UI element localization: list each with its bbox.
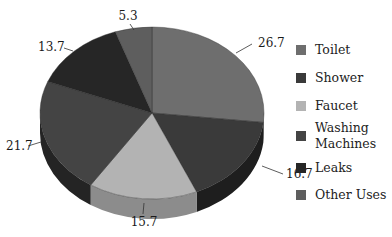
legend-item-toilet: Toilet — [296, 43, 350, 56]
legend-swatch-leaks — [296, 163, 306, 173]
pie-slices — [40, 27, 264, 199]
data-label-leaks: 13.7 — [38, 40, 65, 54]
pie-slice-toilet — [152, 27, 264, 122]
legend-label-washing-machines: Washing Machines — [315, 120, 376, 152]
legend-swatch-washing-machines — [296, 131, 306, 141]
leader-line-shower — [262, 166, 283, 174]
legend-label-leaks: Leaks — [315, 161, 352, 174]
legend-item-faucet: Faucet — [296, 99, 358, 112]
leader-line-toilet — [236, 44, 252, 53]
data-label-other-uses: 5.3 — [118, 9, 137, 23]
legend-swatch-toilet — [296, 45, 306, 55]
legend-item-other-uses: Other Uses — [296, 188, 386, 201]
data-label-faucet: 15.7 — [131, 215, 158, 229]
legend-swatch-other-uses — [296, 190, 306, 200]
legend-item-washing-machines: Washing Machines — [296, 120, 376, 152]
legend-label-faucet: Faucet — [315, 99, 358, 112]
legend-label-washing-line2: Machines — [315, 136, 376, 152]
data-label-washing-machines: 21.7 — [6, 139, 33, 153]
legend-label-shower: Shower — [315, 71, 363, 84]
legend-item-leaks: Leaks — [296, 161, 352, 174]
legend-swatch-shower — [296, 73, 306, 83]
legend-item-shower: Shower — [296, 71, 363, 84]
data-label-toilet: 26.7 — [258, 36, 285, 50]
legend-label-toilet: Toilet — [315, 43, 350, 56]
leader-line-leaks — [64, 48, 73, 51]
legend-label-washing-line1: Washing — [315, 120, 376, 136]
legend-label-other-uses: Other Uses — [315, 188, 386, 201]
legend-swatch-faucet — [296, 101, 306, 111]
